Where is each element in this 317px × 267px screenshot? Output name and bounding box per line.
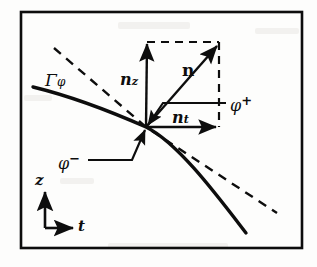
phi-minus-leader (88, 130, 145, 160)
tangent-line-dashed (54, 48, 277, 213)
phi-minus-label: φ− (58, 152, 80, 172)
gamma-curve-label: Γφ (45, 72, 66, 89)
nz-subscript: z (132, 75, 138, 88)
nz-symbol: n (120, 70, 132, 89)
normal-vector-label: n (182, 62, 194, 79)
nt-subscript: t (184, 113, 189, 126)
nt-symbol: n (172, 108, 184, 127)
gamma-curve-symbol: Γ (45, 70, 57, 90)
gamma-curve-subscript: φ (57, 75, 66, 89)
phi-plus-symbol: φ (230, 96, 241, 115)
figure-container: Γφ nz n nt φ+ φ− z t (0, 0, 317, 267)
nt-label: nt (172, 110, 189, 126)
axis-z-label: z (35, 173, 44, 188)
normal-z-component-arrow (146, 44, 147, 127)
phi-minus-symbol: φ (58, 154, 69, 173)
phi-plus-label: φ+ (230, 94, 252, 114)
phi-minus-superscript: − (69, 151, 80, 166)
nz-label: nz (120, 72, 138, 88)
figure-frame (21, 12, 302, 248)
phi-plus-superscript: + (241, 93, 252, 108)
axis-t-label: t (78, 219, 85, 234)
figure-drawing (0, 0, 317, 267)
